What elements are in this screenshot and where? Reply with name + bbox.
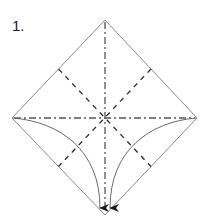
arrow-right-corner-to-bottom [110,118,196,208]
arrow-left-corner-to-bottom [13,118,100,208]
fold-diagram [0,0,210,223]
mountain-fold-lines [14,22,195,212]
